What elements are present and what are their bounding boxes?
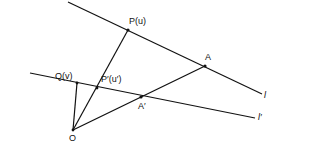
label-l-prime: l′ [258, 113, 262, 122]
label-p-prime: P′(u′) [101, 75, 121, 84]
label-o: O [69, 134, 76, 143]
point-o [72, 129, 75, 132]
label-a: A [205, 53, 211, 62]
point-a-prime [139, 95, 142, 98]
point-a [203, 64, 206, 67]
label-l: l [264, 91, 266, 100]
label-p: P(u) [129, 17, 146, 26]
segment-o-a [73, 66, 205, 130]
point-p-prime [96, 87, 99, 90]
point-q [76, 82, 79, 85]
line-l [68, 2, 262, 94]
label-q: Q(v) [55, 72, 73, 81]
point-p [126, 28, 129, 31]
label-a-prime: A′ [138, 102, 146, 111]
